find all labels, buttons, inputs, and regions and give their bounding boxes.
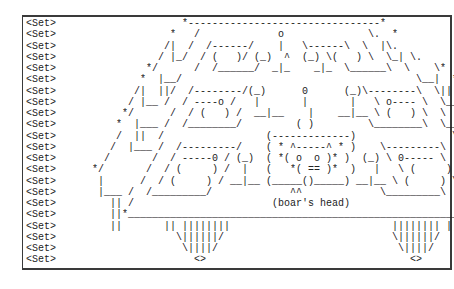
output-line: <Set> \||||||/ \||||||/ — [26, 232, 454, 243]
output-panel: <Set> *--------------------------------*… — [22, 15, 452, 270]
output-line: <Set> / |___ / /---------/ ( * ^-----^ *… — [26, 142, 454, 153]
output-line: <Set> / / / -----0 / (_) ( *( o o )* ) (… — [26, 153, 454, 164]
output-line: <Set> / || / (-------------) \ || |\. — [26, 131, 454, 142]
output-line: <Set> |___ / /_________/ ^^ \_________\ … — [26, 187, 454, 198]
output-line: <Set> / |__ / / ----o / | | | \ o---- \ … — [26, 97, 454, 108]
output-line: <Set> || / (boar's head) \.|| — [26, 198, 454, 209]
output-lines: <Set> *--------------------------------*… — [26, 18, 454, 266]
output-line: <Set> */ / /______/ _|_ _|_ \______\ \ \… — [26, 63, 454, 74]
output-line: <Set> * |__/ \__| * — [26, 74, 454, 85]
output-line: <Set> <> <> — [26, 254, 454, 265]
output-line: <Set> */ / / ( ) / | ( *( == )* ) | \ ( … — [26, 164, 454, 175]
output-line: <Set> \||||/ \||||/ — [26, 243, 454, 254]
output-line: <Set> ||*_______________________________… — [26, 209, 454, 220]
output-line: <Set> * / o \. * — [26, 29, 454, 40]
output-line: <Set> * |___ / /________/ ( ) \________\… — [26, 119, 454, 130]
output-line: <Set> *--------------------------------* — [26, 18, 454, 29]
output-line: <Set> / |_/ / ( )/ (_) ^ (_) \( ) \ \_| … — [26, 52, 454, 63]
output-line: <Set> || || |||||||| |||||||| || || — [26, 221, 454, 232]
output-line: <Set> | / / ( ) / __|__ (_____()_____) _… — [26, 176, 454, 187]
output-line: <Set> */ / / ( ) / __|__ | __|__ \ ( ) \… — [26, 108, 454, 119]
output-line: <Set> /| / /------/ | \------\ \ |\. — [26, 41, 454, 52]
output-line: <Set> /| ||/ /--------/(_) 0 (_)\-------… — [26, 86, 454, 97]
